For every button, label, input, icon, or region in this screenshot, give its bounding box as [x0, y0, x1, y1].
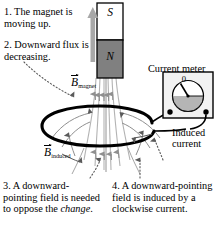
b-induced-symbol: B	[44, 146, 51, 158]
magnet-south-label: S	[101, 6, 119, 18]
b-magnet-vector-label: Bmagnet	[71, 76, 96, 88]
induced-current-label: Inducedcurrent	[172, 127, 218, 150]
vector-arrow-icon	[44, 145, 51, 146]
induced-current-label-line2: current	[172, 138, 201, 149]
b-magnet-subscript: magnet	[78, 83, 96, 89]
magnet-field-arrowheads	[95, 94, 113, 101]
induced-current-label-line1: Induced	[172, 127, 205, 138]
magnet-field-arrowheads-lower	[96, 152, 119, 160]
annotation-3: 3. A downward-pointing field is needed t…	[3, 180, 103, 215]
meter-needle-pivot	[186, 94, 189, 97]
b-induced-subscript: induced	[51, 153, 70, 159]
leader-note-2	[24, 62, 72, 96]
induction-figure: S N 1. The magnet is moving up. 2. Downw…	[0, 0, 218, 239]
meter-terminal-left	[167, 109, 172, 114]
magnet-north-label: N	[101, 50, 119, 62]
leader-induced-current	[155, 140, 163, 160]
annotation-3-text-after: .	[90, 203, 93, 214]
meter-terminal-right	[203, 109, 208, 114]
meter-scale-zero-label: 0	[175, 74, 193, 84]
annotation-3-emphasis: change	[60, 203, 90, 214]
annotation-1: 1. The magnet is moving up.	[4, 6, 90, 29]
annotation-4: 4. A downward-pointing field is induced …	[112, 180, 216, 215]
b-magnet-symbol: B	[71, 76, 78, 88]
current-meter-label: Current meter	[148, 63, 218, 75]
b-induced-vector-label: Binduced	[44, 146, 70, 158]
vector-arrow-icon	[71, 75, 78, 76]
annotation-2: 2. Downward flux is decreasing.	[4, 39, 92, 62]
magnet-field-lines	[84, 78, 130, 170]
